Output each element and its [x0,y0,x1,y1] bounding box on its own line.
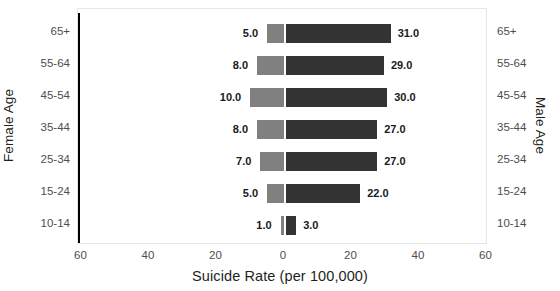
female-age-tick-15-24: 15-24 [41,186,70,198]
bar-male-10-14 [286,216,296,235]
male-age-tick-45-54: 45-54 [497,90,526,102]
bar-male-35-44 [286,120,377,139]
bar-male-55-64 [286,56,384,75]
bar-male-65plus [286,24,391,43]
male-age-tick-65plus: 65+ [497,26,517,38]
value-label-female-15-24: 5.0 [243,188,258,199]
bar-female-10-14 [281,216,284,235]
value-label-female-35-44: 8.0 [233,124,248,135]
value-label-female-45-54: 10.0 [220,92,241,103]
x-tick-5: 40 [398,250,438,262]
male-age-tick-15-24: 15-24 [497,186,526,198]
male-age-tick-25-34: 25-34 [497,154,526,166]
male-age-axis-title-text: Male Age [534,96,549,153]
x-tick-2: 20 [196,250,236,262]
value-label-male-25-34: 27.0 [384,156,405,167]
male-age-tick-10-14: 10-14 [497,218,526,230]
value-label-male-15-24: 22.0 [367,188,388,199]
bar-female-45-54 [250,88,284,107]
bar-female-55-64 [257,56,284,75]
bar-male-25-34 [286,152,377,171]
bar-female-35-44 [257,120,284,139]
x-tick-3: 0 [263,250,303,262]
female-age-axis-title: Female Age [0,0,18,250]
value-label-male-35-44: 27.0 [384,124,405,135]
female-age-tick-65plus: 65+ [50,26,70,38]
value-label-female-65plus: 5.0 [243,28,258,39]
value-label-male-45-54: 30.0 [394,92,415,103]
male-age-tick-55-64: 55-64 [497,58,526,70]
bar-female-65plus [267,24,284,43]
zero-baseline [78,13,80,243]
suicide-rate-population-pyramid-chart: Female Age Male Age 5.031.08.029.010.030… [0,0,560,291]
female-age-tick-55-64: 55-64 [41,58,70,70]
x-tick-4: 20 [331,250,371,262]
value-label-female-55-64: 8.0 [233,60,248,71]
male-age-axis-title: Male Age [532,0,550,250]
value-label-male-55-64: 29.0 [391,60,412,71]
value-label-female-10-14: 1.0 [256,220,271,231]
female-age-tick-45-54: 45-54 [41,90,70,102]
female-age-axis-title-text: Female Age [2,88,17,161]
bar-female-25-34 [260,152,284,171]
female-age-tick-25-34: 25-34 [41,154,70,166]
value-label-male-65plus: 31.0 [398,28,419,39]
x-axis-title: Suicide Rate (per 100,000) [0,268,560,284]
value-label-male-10-14: 3.0 [303,220,318,231]
male-age-tick-35-44: 35-44 [497,122,526,134]
bar-female-15-24 [267,184,284,203]
x-tick-6: 60 [466,250,506,262]
value-label-female-25-34: 7.0 [236,156,251,167]
female-age-tick-35-44: 35-44 [41,122,70,134]
plot-area: 5.031.08.029.010.030.08.027.07.027.05.02… [77,8,487,244]
bar-male-15-24 [286,184,360,203]
x-tick-0: 60 [61,250,101,262]
female-age-tick-10-14: 10-14 [41,218,70,230]
bar-male-45-54 [286,88,387,107]
x-tick-1: 40 [128,250,168,262]
